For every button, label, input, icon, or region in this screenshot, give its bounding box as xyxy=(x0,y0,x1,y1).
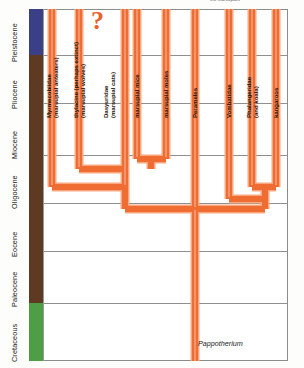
taxon-scientific-name: Vombatidae xyxy=(226,84,233,118)
epoch-label-oligocene: Oligocene xyxy=(10,175,19,209)
taxon-common-name: (and koala) xyxy=(252,77,259,118)
taxon-label: thylacine (perhaps extinct)(marsupial wo… xyxy=(73,42,86,118)
root-taxon-label: Pappotherium xyxy=(198,339,243,348)
taxon-common-name: (marsupial cats) xyxy=(109,72,116,118)
taxon-common-name: (marsupial anteaters) xyxy=(52,57,59,118)
marsupial-phylogeny-figure: the marsupials PleistocenePlioceneMiocen… xyxy=(0,0,304,368)
phylogenetic-tree xyxy=(29,9,288,361)
epoch-label-paleocene: Paleocene xyxy=(10,272,19,307)
figure-caption: the marsupials xyxy=(150,0,300,3)
taxon-label: Perameles xyxy=(192,88,199,118)
epoch-label-miocene: Miocene xyxy=(10,131,19,159)
taxon-label: Phalangeridae(and koala) xyxy=(246,77,259,118)
taxon-scientific-name: marsupial mice xyxy=(134,74,141,118)
epoch-label-cretaceous: Cretaceous xyxy=(10,324,19,362)
taxon-scientific-name: Perameles xyxy=(192,88,199,118)
taxon-label: kangaroos xyxy=(273,88,280,118)
taxon-label: Vombatidae xyxy=(226,84,233,118)
epoch-label-eocene: Eocene xyxy=(10,232,19,257)
taxon-common-name: (marsupial wolves) xyxy=(79,42,86,118)
uncertainty-question-mark: ? xyxy=(91,8,104,34)
taxon-label: marsupial moles xyxy=(163,71,170,118)
epoch-label-pliocene: Pliocene xyxy=(10,80,19,109)
taxon-label: Myrmecobiidae(marsupial anteaters) xyxy=(46,57,59,118)
taxon-scientific-name: kangaroos xyxy=(273,88,280,118)
taxon-scientific-name: marsupial moles xyxy=(163,71,170,118)
taxon-label: marsupial mice xyxy=(134,74,141,118)
taxon-label: Dasyuridae(marsupial cats) xyxy=(103,72,116,118)
epoch-label-pleistocene: Pleistocene xyxy=(10,23,19,62)
